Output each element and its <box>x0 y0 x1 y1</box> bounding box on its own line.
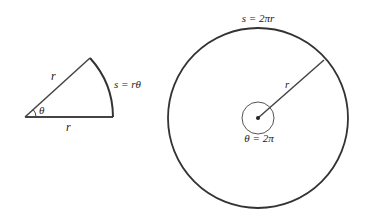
sector-arc <box>90 58 113 117</box>
circle-radius-label: r <box>285 78 290 90</box>
sector-angle-label: θ <box>39 104 45 116</box>
sector-arc-label: s = rθ <box>114 78 141 90</box>
circle-arc-label: s = 2πr <box>242 12 275 24</box>
sector-radius-label-top: r <box>51 69 56 83</box>
sector-radius-label-bottom: r <box>66 120 71 134</box>
sector-top-radius <box>25 58 90 117</box>
circle-figure: r s = 2πr θ = 2π <box>168 12 348 208</box>
radian-diagram: r r θ s = rθ r s = 2πr θ = 2π <box>0 0 366 220</box>
circle-angle-label: θ = 2π <box>244 132 274 144</box>
circle-radius <box>258 60 324 118</box>
sector-angle-mark <box>33 110 36 117</box>
circle-center-point <box>256 116 260 120</box>
sector-figure: r r θ s = rθ <box>25 58 141 134</box>
